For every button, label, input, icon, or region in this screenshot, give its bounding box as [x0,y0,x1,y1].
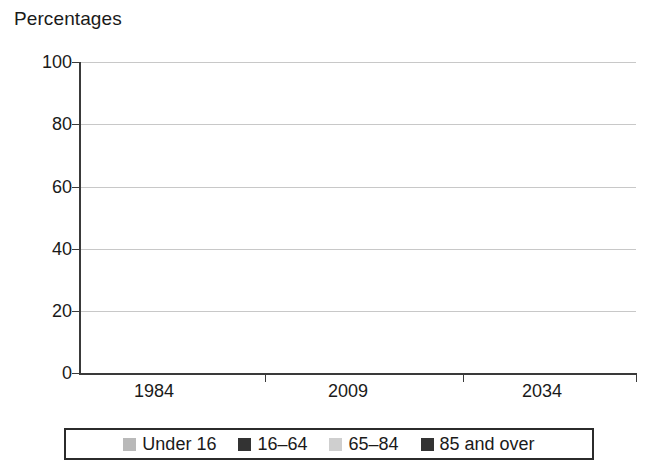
gridline-80 [80,124,636,125]
legend-item-16-64[interactable]: 16–64 [238,435,307,453]
gridline-60 [80,187,636,188]
stacked-bar-chart: Percentages 100 80 60 40 20 0 [0,0,658,471]
legend-label-65-84: 65–84 [348,435,398,453]
y-tick-label-100: 100 [10,52,72,73]
x-tick-mark-3 [636,373,637,382]
x-tick-mark-1 [265,373,266,382]
y-tick-label-80: 80 [10,114,72,135]
x-tick-mark-2 [463,373,464,382]
y-axis-title: Percentages [14,8,122,30]
gridline-40 [80,249,636,250]
legend-item-85-and-over[interactable]: 85 and over [421,435,535,453]
x-tick-label-2009: 2009 [328,381,368,402]
chart-legend: Under 16 16–64 65–84 85 and over [64,428,594,460]
legend-item-under-16[interactable]: Under 16 [123,435,216,453]
legend-swatch-under-16-icon [123,438,136,451]
legend-item-65-84[interactable]: 65–84 [329,435,398,453]
gridline-100 [80,62,636,63]
y-tick-label-60: 60 [10,177,72,198]
legend-label-16-64: 16–64 [257,435,307,453]
x-tick-label-2034: 2034 [522,381,562,402]
legend-swatch-65-84-icon [329,438,342,451]
legend-label-85-and-over: 85 and over [440,435,535,453]
x-tick-label-1984: 1984 [134,381,174,402]
y-tick-label-40: 40 [10,239,72,260]
x-axis-line [79,373,637,375]
plot-area [80,62,636,373]
legend-swatch-16-64-icon [238,438,251,451]
gridline-20 [80,311,636,312]
y-axis-line [79,62,81,374]
legend-label-under-16: Under 16 [142,435,216,453]
y-tick-label-0: 0 [10,363,72,384]
legend-swatch-85-and-over-icon [421,438,434,451]
y-tick-label-20: 20 [10,301,72,322]
